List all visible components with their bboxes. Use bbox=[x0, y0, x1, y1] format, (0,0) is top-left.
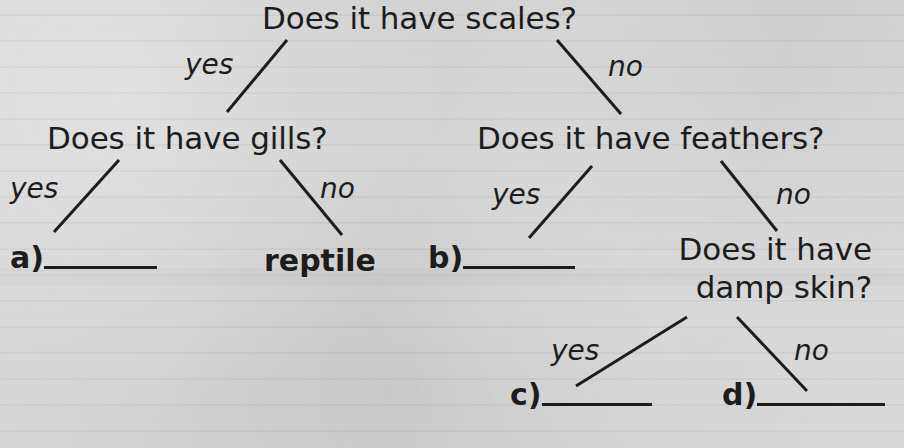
branch-label-damp-yes: yes bbox=[551, 334, 599, 367]
answer-blank-b[interactable]: b) bbox=[428, 243, 575, 273]
answer-blank-a-marker: a) bbox=[10, 243, 44, 273]
leaf-label-reptile: reptile bbox=[264, 243, 376, 278]
damp-skin-line-2: damp skin? bbox=[676, 268, 872, 306]
answer-blank-c-rule[interactable] bbox=[542, 403, 652, 406]
branch-label-feathers-no: no bbox=[776, 178, 811, 211]
branch-label-scales-no: no bbox=[608, 50, 643, 83]
question-node-damp-skin: Does it have damp skin? bbox=[676, 230, 872, 307]
edge-gills-yes bbox=[54, 160, 119, 232]
answer-blank-c-marker: c) bbox=[510, 380, 542, 410]
edge-scales-yes bbox=[227, 40, 287, 112]
answer-blank-a-rule[interactable] bbox=[44, 266, 157, 269]
branch-label-gills-no: no bbox=[320, 172, 355, 205]
answer-blank-b-marker: b) bbox=[428, 243, 463, 273]
question-node-scales: Does it have scales? bbox=[262, 2, 577, 35]
answer-blank-a[interactable]: a) bbox=[10, 243, 157, 273]
branch-label-scales-yes: yes bbox=[185, 48, 233, 81]
answer-blank-d-marker: d) bbox=[722, 380, 757, 410]
question-node-feathers: Does it have feathers? bbox=[477, 122, 824, 155]
answer-blank-d-rule[interactable] bbox=[757, 403, 885, 406]
edge-feathers-no bbox=[721, 161, 777, 231]
branch-label-feathers-yes: yes bbox=[492, 178, 540, 211]
answer-blank-c[interactable]: c) bbox=[510, 380, 652, 410]
answer-blank-b-rule[interactable] bbox=[463, 266, 575, 269]
branch-label-gills-yes: yes bbox=[10, 172, 58, 205]
question-node-gills: Does it have gills? bbox=[47, 122, 328, 155]
answer-blank-d[interactable]: d) bbox=[722, 380, 885, 410]
damp-skin-line-1: Does it have bbox=[676, 230, 872, 268]
branch-label-damp-no: no bbox=[794, 334, 829, 367]
decision-tree-figure: Does it have scales? yes no Does it have… bbox=[0, 0, 904, 448]
